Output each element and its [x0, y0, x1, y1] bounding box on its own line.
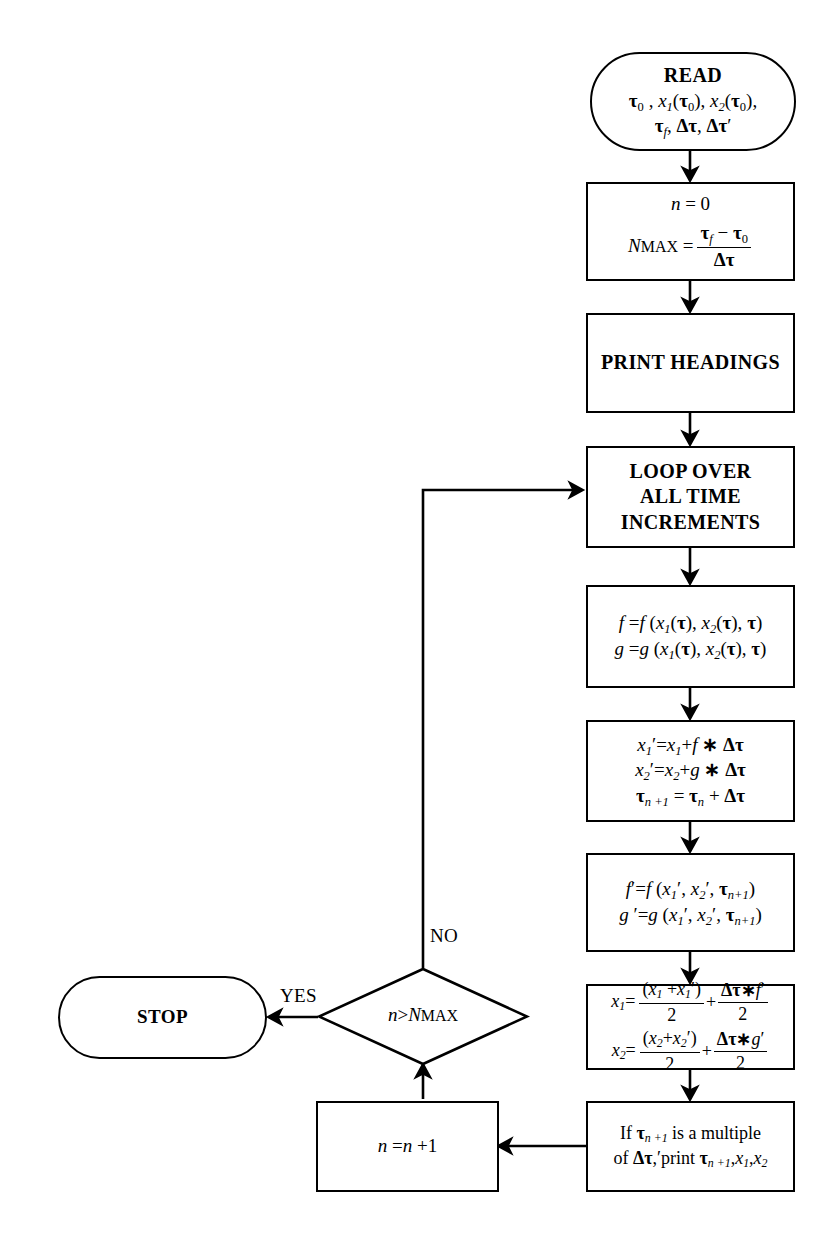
node-print-headings: PRINT HEADINGS	[586, 313, 795, 413]
node-initialize: n = 0 NMAX = τf − τ0 Δτ	[586, 182, 795, 281]
increment-label: n =n +1	[318, 1134, 497, 1158]
flowchart-canvas: READ τ0 , x1(τ0), x2(τ0), τf, Δτ, Δτ′ n …	[0, 0, 837, 1245]
node-predictor: x1′=x1+f ∗ Δτ x2′=x2+g ∗ Δτ τn +1 = τn +…	[586, 720, 795, 822]
init-n-equals-zero: n = 0	[594, 192, 787, 216]
node-loop: LOOP OVER ALL TIME INCREMENTS	[586, 446, 795, 548]
predictor-x1-line: x1′=x1+f ∗ Δτ	[594, 733, 787, 759]
node-corrector: x1= (x1 +x1′) 2 + Δτ∗f′ 2 x2= (x2+x2′) 2…	[586, 984, 795, 1070]
derivs-prime-f-line: f′=f (x1′, x2′, τn+1)	[594, 877, 787, 903]
node-increment: n =n +1	[316, 1101, 499, 1192]
conditional-print-line1: If τn +1 is a multiple	[594, 1122, 787, 1147]
read-params-line1: τ0 , x1(τ0), x2(τ0),	[598, 89, 788, 115]
loop-label-line3: INCREMENTS	[594, 510, 787, 536]
stop-label: STOP	[60, 1005, 265, 1029]
node-stop: STOP	[58, 976, 267, 1059]
read-params-line2: τf, Δτ, Δτ′	[598, 114, 788, 140]
corrector-x2-line: x2= (x2+x2′) 2 + Δτ∗g′ 2	[594, 1028, 787, 1075]
loop-label-line1: LOOP OVER	[594, 459, 787, 485]
derivs-f-line: f =f (x1(τ), x2(τ), τ)	[594, 611, 787, 637]
predictor-x2-line: x2′=x2+g ∗ Δτ	[594, 758, 787, 784]
node-read: READ τ0 , x1(τ0), x2(τ0), τf, Δτ, Δτ′	[590, 52, 796, 151]
derivs-prime-g-line: g ′=g (x1′, x2′, τn+1)	[594, 903, 787, 929]
read-title: READ	[598, 63, 788, 89]
edge-label-no: NO	[430, 925, 458, 947]
node-derivatives: f =f (x1(τ), x2(τ), τ) g =g (x1(τ), x2(τ…	[586, 585, 795, 688]
init-nmax-formula: NMAX = τf − τ0 Δτ	[594, 222, 787, 271]
edge-label-yes: YES	[280, 985, 317, 1007]
edge-decision-no-to-loop	[423, 490, 582, 968]
print-headings-label: PRINT HEADINGS	[588, 350, 793, 376]
node-conditional-print: If τn +1 is a multiple of Δτ,′print τn +…	[586, 1101, 795, 1192]
node-decision: n>NMAX	[316, 966, 530, 1067]
derivs-g-line: g =g (x1(τ), x2(τ), τ)	[594, 637, 787, 663]
decision-label: n>NMAX	[316, 1004, 530, 1026]
loop-label-line2: ALL TIME	[594, 484, 787, 510]
predictor-tau-line: τn +1 = τn + Δτ	[594, 784, 787, 810]
corrector-x1-line: x1= (x1 +x1′) 2 + Δτ∗f′ 2	[594, 979, 787, 1026]
node-derivatives-prime: f′=f (x1′, x2′, τn+1) g ′=g (x1′, x2′, τ…	[586, 853, 795, 952]
conditional-print-line2: of Δτ,′print τn +1,x1,x2	[594, 1147, 787, 1172]
